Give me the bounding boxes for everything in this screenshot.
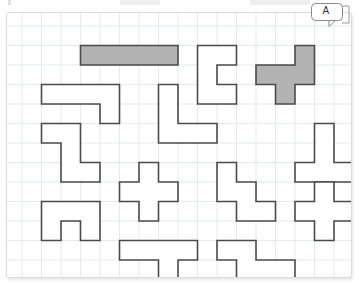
x-pentomino-plus-center[interactable] (120, 163, 179, 222)
scan-artifact-mid (120, 0, 160, 5)
pentomino-board[interactable] (7, 13, 352, 278)
pentomino-shapes[interactable] (42, 46, 353, 279)
t-pentomino-bottom-center[interactable] (120, 241, 198, 279)
u-pentomino-bottom-left[interactable] (42, 202, 101, 241)
worksheet-page: A (0, 0, 359, 295)
w-pentomino-left-middle[interactable] (42, 124, 101, 183)
f-pentomino-highlighted-top-right[interactable] (256, 46, 315, 105)
callout-badge[interactable]: A (309, 2, 353, 28)
scan-artifact-right (250, 0, 310, 5)
p-pentomino-top-center[interactable] (198, 46, 237, 105)
n-pentomino-bottom-right[interactable] (217, 241, 295, 279)
puzzle-panel (6, 12, 352, 278)
i-pentomino-horizontal-bar[interactable] (81, 46, 179, 66)
scan-artifact-left (8, 0, 11, 5)
f-pentomino-right-lower[interactable] (295, 182, 352, 241)
n-pentomino-step-center-right[interactable] (217, 163, 276, 222)
callout-label: A (309, 5, 343, 16)
t-pentomino-right-middle[interactable] (295, 124, 352, 183)
